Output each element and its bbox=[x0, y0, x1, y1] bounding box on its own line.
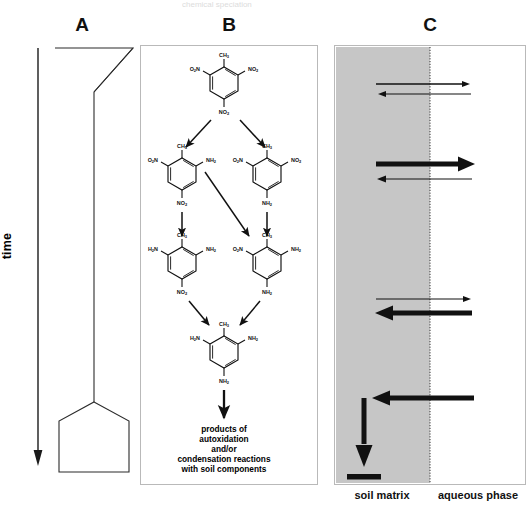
time-arrow bbox=[32, 48, 46, 468]
svg-text:O2N: O2N bbox=[148, 157, 158, 164]
svg-text:H2N: H2N bbox=[148, 246, 158, 253]
bound-residue-bar bbox=[347, 474, 381, 480]
svg-text:NH2: NH2 bbox=[206, 157, 217, 164]
tnt-bottom-label: NO2 bbox=[219, 109, 230, 116]
svg-text:NH2: NH2 bbox=[262, 200, 273, 207]
svg-text:NO2: NO2 bbox=[177, 289, 188, 296]
panel-b: CH3 O2N NO2 NO2 CH3 O2N NH2 bbox=[140, 45, 318, 485]
svg-text:NH2: NH2 bbox=[248, 335, 259, 342]
svg-text:NH2: NH2 bbox=[206, 246, 217, 253]
structure-triaminotoluene: CH3 H2N NH2 NH2 bbox=[190, 321, 259, 385]
arrow-24da6nt-to-tat bbox=[240, 301, 260, 325]
arrow-cross-left-to-right bbox=[205, 172, 249, 236]
panel-c bbox=[334, 45, 526, 485]
svg-text:NH2: NH2 bbox=[262, 289, 273, 296]
arrow-26da4nt-to-tat bbox=[189, 301, 209, 325]
structure-2-6-diamino-4-nitrotoluene: CH3 H2N NH2 NO2 bbox=[148, 232, 217, 296]
caption-line-2: autoxidation bbox=[199, 434, 248, 444]
caption-line-5: with soil components bbox=[181, 464, 267, 474]
svg-text:NH2: NH2 bbox=[219, 378, 230, 385]
svg-text:NO2: NO2 bbox=[177, 200, 188, 207]
caption-line-1: products of bbox=[201, 424, 247, 434]
tnt-top-label: CH3 bbox=[219, 52, 230, 59]
panel-letter-c: C bbox=[410, 14, 450, 36]
svg-text:CH3: CH3 bbox=[262, 232, 273, 239]
soil-matrix-label: soil matrix bbox=[334, 489, 430, 501]
panel-b-pathway: CH3 O2N NO2 NO2 CH3 O2N NH2 bbox=[141, 46, 317, 484]
panel-letter-b: B bbox=[209, 14, 249, 36]
panel-a: time bbox=[0, 44, 140, 484]
svg-text:CH3: CH3 bbox=[177, 232, 188, 239]
funnel-shape bbox=[55, 48, 133, 92]
svg-text:O2N: O2N bbox=[233, 157, 243, 164]
aqueous-phase-label: aqueous phase bbox=[430, 489, 526, 501]
caption-line-3: and/or bbox=[211, 444, 237, 454]
top-cropped-text: chemical speciation bbox=[182, 0, 362, 9]
reservoir-shape bbox=[59, 402, 129, 472]
svg-text:CH3: CH3 bbox=[262, 143, 273, 150]
panel-a-vessel bbox=[48, 44, 140, 476]
arrow-tnt-to-2a46dnt bbox=[186, 120, 211, 147]
svg-text:NO2: NO2 bbox=[291, 157, 302, 164]
svg-text:CH3: CH3 bbox=[177, 143, 188, 150]
structure-4-amino-2-6-dinitrotoluene: CH3 O2N NO2 NH2 bbox=[233, 143, 302, 207]
panel-c-partition bbox=[335, 46, 525, 484]
tnt-right-label: NO2 bbox=[248, 66, 259, 73]
svg-text:CH3: CH3 bbox=[219, 321, 230, 328]
time-axis-label: time bbox=[0, 208, 14, 284]
structure-2-4-diamino-6-nitrotoluene: CH3 O2N NH2 NH2 bbox=[233, 232, 302, 296]
tnt-left-label: O2N bbox=[190, 66, 200, 73]
figure-root: chemical speciation A B C time bbox=[0, 0, 529, 515]
structure-tnt: CH3 O2N NO2 NO2 bbox=[190, 52, 259, 116]
panel-letter-a: A bbox=[62, 14, 102, 36]
svg-text:O2N: O2N bbox=[233, 246, 243, 253]
svg-text:NH2: NH2 bbox=[291, 246, 302, 253]
svg-text:H2N: H2N bbox=[190, 335, 200, 342]
soil-matrix-block bbox=[336, 47, 430, 483]
caption-line-4: condensation reactions bbox=[177, 454, 271, 464]
